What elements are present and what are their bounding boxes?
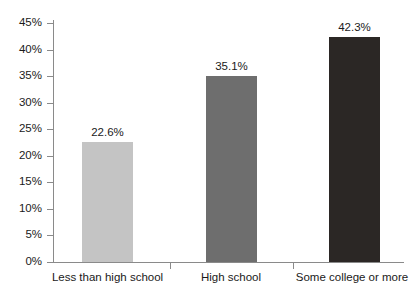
bar-chart: 45% 40% 35% 30% 25% 20% 15% 10% 5% 0% 22…: [0, 0, 414, 297]
y-tick-label-45: 45%: [2, 17, 42, 29]
x-tick-mark-boundary-2: [293, 263, 294, 269]
x-axis-line: [53, 262, 404, 263]
y-tick-label-5: 5%: [2, 229, 42, 241]
y-axis-line: [53, 20, 54, 263]
bar-value-label-high-school: 35.1%: [201, 60, 262, 72]
y-tick-label-10: 10%: [2, 203, 42, 215]
y-tick-label-30: 30%: [2, 97, 42, 109]
y-tick-label-20: 20%: [2, 150, 42, 162]
bar-high-school: [206, 76, 257, 262]
bar-less-than-high-school: [82, 142, 133, 262]
bar-value-label-less-than-high-school: 22.6%: [77, 126, 138, 138]
x-axis-label-high-school: High school: [181, 271, 281, 284]
y-tick-label-15: 15%: [2, 176, 42, 188]
x-axis-label-less-than-high-school: Less than high school: [42, 271, 173, 284]
y-tick-label-35: 35%: [2, 70, 42, 82]
y-tick-label-40: 40%: [2, 44, 42, 56]
x-tick-mark-boundary-1: [170, 263, 171, 269]
bar-some-college-or-more: [329, 37, 380, 262]
y-tick-label-25: 25%: [2, 123, 42, 135]
bar-value-label-some-college-or-more: 42.3%: [324, 21, 385, 33]
y-tick-label-0: 0%: [2, 256, 42, 268]
x-axis-label-some-college-or-more: Some college or more: [290, 271, 414, 284]
